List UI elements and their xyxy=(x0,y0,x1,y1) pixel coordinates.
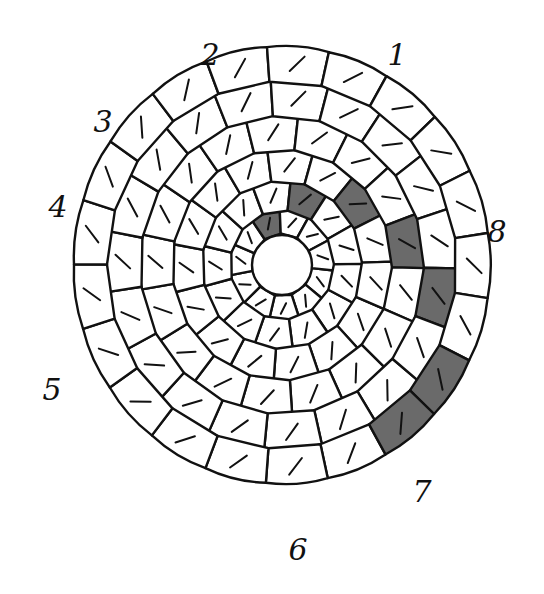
hatch-mark xyxy=(141,116,142,137)
parastichy-label-6: 6 xyxy=(288,535,307,565)
scale-cell xyxy=(74,200,115,264)
spiral-scale-diagram xyxy=(0,0,544,594)
parastichy-label-5: 5 xyxy=(42,375,61,405)
hatch-mark xyxy=(331,342,332,359)
hatch-mark xyxy=(350,204,367,205)
parastichy-label-3: 3 xyxy=(93,107,112,137)
hatch-mark xyxy=(216,298,231,299)
parastichy-label-1: 1 xyxy=(387,40,406,70)
parastichy-label-8: 8 xyxy=(487,217,506,247)
hatch-mark xyxy=(177,352,195,353)
hatch-mark xyxy=(145,364,164,365)
hatch-mark xyxy=(239,284,250,285)
scale-cell xyxy=(267,46,329,86)
hatch-mark xyxy=(305,295,306,307)
hatch-mark xyxy=(243,200,244,215)
parastichy-label-2: 2 xyxy=(200,40,219,70)
center-disc xyxy=(252,235,312,295)
hatch-mark xyxy=(356,363,357,382)
parastichy-label-4: 4 xyxy=(48,192,67,222)
parastichy-label-7: 7 xyxy=(412,477,431,507)
